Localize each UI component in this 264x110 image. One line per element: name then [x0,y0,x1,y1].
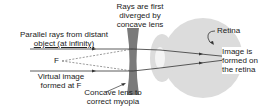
label-line: object (at infinity) [3,39,125,48]
label-line: formed on [222,56,258,65]
label-parallel-rays: Parallel rays from distant object (at in… [3,30,125,48]
virtual-rays [62,49,133,71]
label-line: concave lens [104,20,176,29]
label-line: Parallel rays from distant [3,30,125,39]
concave-lens [127,28,139,95]
label-line: correct myopia [78,97,148,106]
label-line: Virtual image [26,72,96,81]
label-focal-point: F [54,56,59,65]
label-line: the retina [222,65,258,74]
label-line: Concave lens to [78,88,148,97]
label-image-formed: Image is formed on the retina [222,47,258,74]
label-line: diverged by [104,11,176,20]
label-retina: Retina [217,26,240,35]
label-rays-diverged: Rays are first diverged by concave lens [104,2,176,29]
label-line: Image is [222,47,258,56]
label-concave-lens: Concave lens to correct myopia [78,88,148,106]
label-line: Rays are first [104,2,176,11]
myopia-correction-diagram: Rays are first diverged by concave lens … [0,0,264,110]
